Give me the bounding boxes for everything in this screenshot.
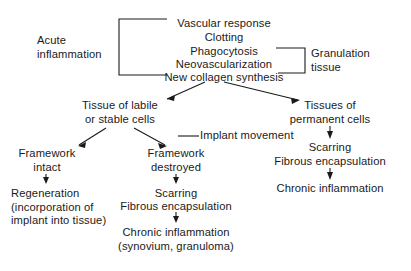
node-clotting: Clotting xyxy=(205,31,244,45)
middle-fibrous-to-chronic-arrow xyxy=(173,212,179,223)
destroyed-to-scarring-arrow xyxy=(173,174,179,184)
node-chronic-inflammation-middle: Chronic inflammation (synovium, granulom… xyxy=(118,226,234,253)
node-tissue-labile-or-stable-cells: Tissue of labile or stable cells xyxy=(82,99,158,126)
node-vascular-response: Vascular response xyxy=(177,17,271,31)
node-implant-movement: Implant movement xyxy=(200,129,294,143)
node-neovascularization: Neovascularization xyxy=(176,58,272,72)
labile-to-intact-arrow xyxy=(78,128,106,148)
node-scarring-middle: Scarring xyxy=(155,187,197,201)
node-new-collagen-synthesis: New collagen synthesis xyxy=(164,71,283,85)
right-bracket-connector xyxy=(276,48,305,73)
left-bracket-connector xyxy=(119,19,167,75)
node-framework-intact: Framework intact xyxy=(19,147,76,174)
node-acute-inflammation: Acute inflammation xyxy=(37,34,102,61)
node-chronic-inflammation-right: Chronic inflammation xyxy=(276,182,383,196)
node-tissues-of-permanent-cells: Tissues of permanent cells xyxy=(290,99,370,126)
permanent-to-scarring-arrow xyxy=(327,126,333,139)
intact-to-regeneration-arrow xyxy=(43,174,49,184)
node-granulation-tissue: Granulation tissue xyxy=(311,47,370,74)
node-fibrous-encapsulation-middle: Fibrous encapsulation xyxy=(120,200,232,214)
collagen-to-labile-arrow xyxy=(167,82,205,101)
collagen-to-permanent-arrow xyxy=(224,82,300,104)
right-fibrous-to-chronic-arrow xyxy=(327,168,333,180)
node-phagocytosis: Phagocytosis xyxy=(190,45,258,59)
flowchart-diagram: Acute inflammation Vascular response Clo… xyxy=(0,0,411,271)
node-fibrous-encapsulation-right: Fibrous encapsulation xyxy=(274,155,386,169)
node-regeneration: Regeneration (incorporation of implant i… xyxy=(11,187,106,228)
labile-to-destroyed-arrow xyxy=(134,128,167,149)
node-framework-destroyed: Framework destroyed xyxy=(148,147,205,174)
node-scarring-right: Scarring xyxy=(309,141,351,155)
